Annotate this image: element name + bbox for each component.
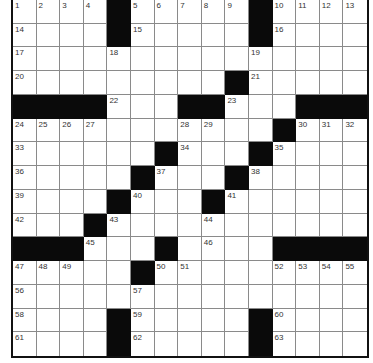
grid-cell[interactable] [131,71,155,95]
grid-cell[interactable] [202,166,226,190]
grid-cell[interactable] [225,332,249,356]
grid-cell[interactable] [202,309,226,333]
grid-cell[interactable] [37,47,61,71]
grid-cell[interactable] [296,166,320,190]
grid-cell[interactable] [273,71,297,95]
grid-cell[interactable] [60,214,84,238]
grid-cell[interactable] [107,71,131,95]
grid-cell[interactable] [60,190,84,214]
grid-cell[interactable] [178,285,202,309]
grid-cell[interactable]: 34 [178,142,202,166]
grid-cell[interactable] [320,285,344,309]
grid-cell[interactable] [178,332,202,356]
grid-cell[interactable] [155,119,179,143]
grid-cell[interactable] [320,190,344,214]
grid-cell[interactable]: 10 [273,0,297,24]
grid-cell[interactable] [296,285,320,309]
grid-cell[interactable] [320,24,344,48]
grid-cell[interactable] [273,190,297,214]
grid-cell[interactable]: 55 [343,261,367,285]
grid-cell[interactable]: 50 [155,261,179,285]
grid-cell[interactable]: 4 [84,0,108,24]
grid-cell[interactable] [84,190,108,214]
grid-cell[interactable] [60,309,84,333]
grid-cell[interactable]: 6 [155,0,179,24]
grid-cell[interactable] [225,261,249,285]
grid-cell[interactable] [343,214,367,238]
grid-cell[interactable] [202,24,226,48]
grid-cell[interactable]: 41 [225,190,249,214]
grid-cell[interactable]: 29 [202,119,226,143]
grid-cell[interactable] [131,237,155,261]
grid-cell[interactable] [37,214,61,238]
grid-cell[interactable] [37,166,61,190]
grid-cell[interactable] [155,332,179,356]
grid-cell[interactable] [60,166,84,190]
grid-cell[interactable] [155,285,179,309]
grid-cell[interactable] [202,285,226,309]
grid-cell[interactable] [320,332,344,356]
grid-cell[interactable]: 53 [296,261,320,285]
grid-cell[interactable] [343,142,367,166]
grid-cell[interactable] [249,261,273,285]
grid-cell[interactable] [178,214,202,238]
grid-cell[interactable] [84,142,108,166]
grid-cell[interactable] [131,214,155,238]
grid-cell[interactable] [107,119,131,143]
grid-cell[interactable] [202,142,226,166]
grid-cell[interactable] [273,214,297,238]
grid-cell[interactable]: 51 [178,261,202,285]
grid-cell[interactable] [296,47,320,71]
grid-cell[interactable] [249,285,273,309]
grid-cell[interactable] [225,142,249,166]
grid-cell[interactable] [225,214,249,238]
grid-cell[interactable] [343,47,367,71]
grid-cell[interactable] [343,24,367,48]
grid-cell[interactable] [273,166,297,190]
grid-cell[interactable] [131,95,155,119]
grid-cell[interactable]: 32 [343,119,367,143]
grid-cell[interactable] [60,285,84,309]
grid-cell[interactable]: 9 [225,0,249,24]
grid-cell[interactable] [296,214,320,238]
grid-cell[interactable] [178,24,202,48]
grid-cell[interactable]: 8 [202,0,226,24]
grid-cell[interactable]: 3 [60,0,84,24]
grid-cell[interactable]: 25 [37,119,61,143]
grid-cell[interactable]: 7 [178,0,202,24]
grid-cell[interactable] [343,309,367,333]
grid-cell[interactable] [155,309,179,333]
grid-cell[interactable] [320,166,344,190]
grid-cell[interactable] [343,332,367,356]
grid-cell[interactable] [273,95,297,119]
grid-cell[interactable] [60,47,84,71]
grid-cell[interactable] [343,285,367,309]
grid-cell[interactable] [107,261,131,285]
grid-cell[interactable]: 40 [131,190,155,214]
grid-cell[interactable] [343,190,367,214]
grid-cell[interactable]: 60 [273,309,297,333]
grid-cell[interactable]: 24 [13,119,37,143]
grid-cell[interactable] [320,309,344,333]
grid-cell[interactable]: 47 [13,261,37,285]
grid-cell[interactable]: 39 [13,190,37,214]
grid-cell[interactable] [84,261,108,285]
grid-cell[interactable] [60,71,84,95]
grid-cell[interactable] [155,71,179,95]
grid-cell[interactable] [37,142,61,166]
grid-cell[interactable]: 2 [37,0,61,24]
grid-cell[interactable]: 19 [249,47,273,71]
grid-cell[interactable] [178,71,202,95]
grid-cell[interactable]: 63 [273,332,297,356]
grid-cell[interactable] [178,309,202,333]
grid-cell[interactable] [84,71,108,95]
grid-cell[interactable] [249,95,273,119]
grid-cell[interactable] [37,190,61,214]
grid-cell[interactable] [249,237,273,261]
grid-cell[interactable]: 16 [273,24,297,48]
grid-cell[interactable]: 14 [13,24,37,48]
grid-cell[interactable] [60,24,84,48]
grid-cell[interactable]: 38 [249,166,273,190]
grid-cell[interactable] [155,190,179,214]
grid-cell[interactable]: 33 [13,142,37,166]
